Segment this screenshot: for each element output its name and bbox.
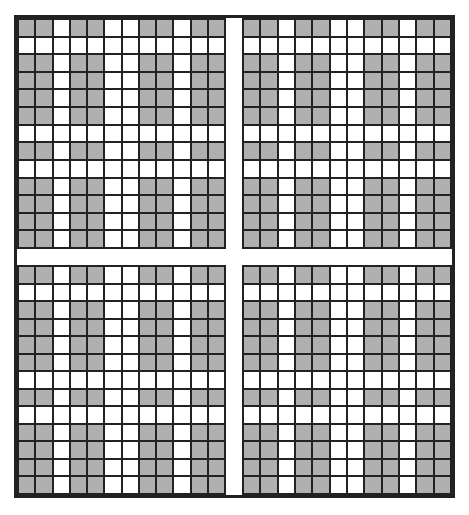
grid-cell — [71, 161, 86, 177]
grid-cell — [365, 73, 380, 89]
grid-cell — [157, 425, 172, 441]
grid-cell — [348, 55, 363, 71]
grid-cell — [331, 126, 346, 142]
grid-cell — [192, 143, 207, 159]
grid-cell — [209, 355, 224, 371]
grid-cell — [36, 302, 51, 318]
grid-cell — [123, 214, 138, 230]
grid-cell — [331, 302, 346, 318]
grid-cell — [400, 73, 415, 89]
grid-cell — [348, 231, 363, 247]
grid-cell — [123, 20, 138, 36]
grid-cell — [400, 477, 415, 493]
grid-cell — [71, 231, 86, 247]
grid-cell — [157, 231, 172, 247]
grid-cell — [71, 20, 86, 36]
grid-cell — [279, 214, 294, 230]
grid-cell — [36, 460, 51, 476]
grid-cell — [279, 460, 294, 476]
grid-cell — [400, 108, 415, 124]
grid-cell — [244, 442, 259, 458]
grid-cell — [123, 285, 138, 301]
grid-cell — [313, 302, 328, 318]
grid-cell — [261, 214, 276, 230]
grid-cell — [417, 337, 432, 353]
grid-cell — [435, 231, 450, 247]
grid-cell — [261, 126, 276, 142]
grid-cell — [54, 161, 69, 177]
grid-cell — [123, 337, 138, 353]
grid-cell — [105, 302, 120, 318]
grid-cell — [88, 161, 103, 177]
grid-cell — [417, 20, 432, 36]
grid-cell — [88, 73, 103, 89]
grid-cell — [383, 407, 398, 423]
grid-cell — [296, 302, 311, 318]
grid-cell — [157, 407, 172, 423]
grid-cell — [435, 73, 450, 89]
grid-cell — [71, 477, 86, 493]
grid-cell — [123, 55, 138, 71]
grid-cell — [383, 161, 398, 177]
grid-cell — [88, 55, 103, 71]
grid-cell — [383, 355, 398, 371]
quadrant-bottom-left — [17, 265, 226, 495]
grid-cell — [71, 390, 86, 406]
grid-cell — [71, 196, 86, 212]
grid-cell — [54, 442, 69, 458]
grid-cell — [331, 407, 346, 423]
grid-cell — [140, 355, 155, 371]
grid-cell — [140, 442, 155, 458]
grid-cell — [296, 390, 311, 406]
grid-cell — [174, 179, 189, 195]
grid-cell — [331, 179, 346, 195]
grid-cell — [261, 355, 276, 371]
grid-cell — [331, 161, 346, 177]
grid-cell — [157, 355, 172, 371]
grid-cell — [140, 302, 155, 318]
grid-cell — [296, 425, 311, 441]
grid-cell — [244, 320, 259, 336]
grid-cell — [140, 372, 155, 388]
grid-cell — [140, 38, 155, 54]
grid-cell — [209, 267, 224, 283]
grid-cell — [174, 38, 189, 54]
grid-cell — [435, 372, 450, 388]
grid-cell — [417, 285, 432, 301]
grid-cell — [71, 320, 86, 336]
grid-cell — [244, 161, 259, 177]
grid-cell — [296, 196, 311, 212]
grid-cell — [244, 407, 259, 423]
grid-cell — [348, 407, 363, 423]
grid-cell — [261, 108, 276, 124]
grid-cell — [400, 460, 415, 476]
grid-cell — [313, 320, 328, 336]
grid-cell — [157, 161, 172, 177]
grid-cell — [331, 460, 346, 476]
grid-cell — [261, 267, 276, 283]
grid-cell — [348, 425, 363, 441]
grid-cell — [383, 372, 398, 388]
grid-cell — [244, 231, 259, 247]
grid-cell — [313, 143, 328, 159]
grid-cell — [296, 477, 311, 493]
grid-cell — [174, 355, 189, 371]
grid-cell — [279, 143, 294, 159]
grid-cell — [313, 285, 328, 301]
grid-cell — [209, 285, 224, 301]
grid-cell — [19, 267, 34, 283]
grid-cell — [105, 90, 120, 106]
grid-cell — [348, 355, 363, 371]
grid-cell — [140, 20, 155, 36]
grid-cell — [261, 337, 276, 353]
grid-cell — [157, 73, 172, 89]
grid-cell — [435, 267, 450, 283]
grid-cell — [365, 126, 380, 142]
grid-cell — [417, 372, 432, 388]
grid-cell — [348, 337, 363, 353]
grid-cell — [209, 126, 224, 142]
grid-cell — [244, 390, 259, 406]
grid-cell — [71, 267, 86, 283]
grid-cell — [174, 108, 189, 124]
grid-cell — [54, 477, 69, 493]
